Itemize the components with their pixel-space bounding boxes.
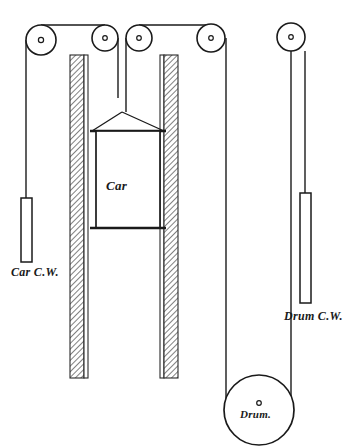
sheaves-group: [26, 23, 305, 55]
sheave-1: [26, 25, 56, 55]
car-rope-hitch: [92, 112, 164, 131]
diagram-canvas: Car Car C.W. Drum C.W. Drum.: [0, 0, 354, 447]
guide-rail-right: [164, 55, 178, 378]
sheave-3: [126, 25, 152, 51]
elevator-hoisting-diagram: Car Car C.W. Drum C.W. Drum.: [0, 0, 354, 447]
car-counterweight-label: Car C.W.: [11, 265, 59, 279]
sheave-3-hub: [137, 36, 142, 41]
sheave-2-hub: [103, 36, 108, 41]
drum-hub: [257, 401, 262, 406]
sheave-2: [92, 25, 118, 51]
sheave-1-hub: [38, 37, 43, 42]
car-assembly: [90, 112, 166, 228]
drum-label: Drum.: [239, 408, 271, 420]
drum-counterweight-block: [300, 193, 311, 303]
guide-rail-left-flange: [84, 55, 88, 378]
guide-rail-left: [70, 55, 84, 378]
drum-counterweight-label: Drum C.W.: [283, 309, 343, 323]
car-label: Car: [106, 178, 128, 193]
sheave-5: [277, 23, 305, 51]
sheave-5-hub: [289, 35, 294, 40]
car-counterweight-block: [21, 198, 32, 262]
sheave-4-hub: [209, 36, 214, 41]
sheave-4: [197, 24, 225, 52]
